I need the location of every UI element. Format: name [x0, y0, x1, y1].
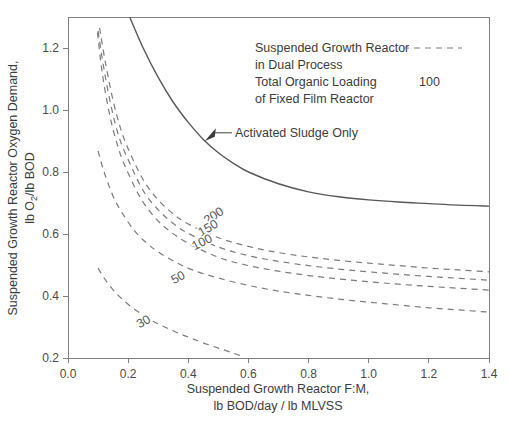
y-tick-label: 0.8 [42, 165, 59, 179]
x-tick-label: 1.4 [481, 367, 498, 381]
curve-50 [98, 151, 489, 312]
y-axis-title: Suspended Growth Reactor Oxygen Demand, … [6, 61, 39, 316]
curve-value-labels: 20020015015010010050503030 [134, 204, 226, 331]
chart-annotations: Activated Sludge Only [205, 126, 359, 141]
x-axis-title-line2: lb BOD/day / lb MLVSS [214, 399, 343, 413]
annotation-label: Activated Sludge Only [235, 126, 359, 140]
y-axis-title-line2-text: lb O [23, 201, 37, 224]
legend-line: Suspended Growth Reactor [255, 41, 409, 55]
y-axis-title-line2: lb O2/lb BOD [23, 152, 39, 224]
x-tick-label: 0.2 [120, 367, 137, 381]
x-tick-label: 0.0 [60, 367, 77, 381]
y-tick-label: 0.6 [42, 227, 59, 241]
x-tick-label: 0.4 [180, 367, 197, 381]
y-tick-label: 1.0 [42, 103, 59, 117]
y-axis-title-line1: Suspended Growth Reactor Oxygen Demand, [6, 61, 20, 316]
y-tick-label: 1.2 [42, 41, 59, 55]
legend-value-label: 100 [419, 75, 440, 89]
curve-label-group: 5050 [169, 268, 188, 287]
chart-canvas: 0.00.20.40.60.81.01.21.4 0.20.40.60.81.0… [0, 0, 510, 425]
y-tick-label: 0.2 [42, 351, 59, 365]
x-tick-label: 0.6 [240, 367, 257, 381]
chart-legend: Suspended Growth Reactorin Dual ProcessT… [255, 41, 462, 106]
legend-line: Total Organic Loading [255, 75, 377, 89]
curve-label-text: 50 [169, 268, 188, 287]
annotation-arrow-icon [205, 128, 216, 141]
x-axis-title-line1: Suspended Growth Reactor F:M, [187, 382, 370, 396]
y-axis-ticks: 0.20.40.60.81.01.2 [42, 41, 68, 365]
curve-30 [98, 268, 242, 356]
x-tick-label: 1.0 [360, 367, 377, 381]
x-axis-title: Suspended Growth Reactor F:M, lb BOD/day… [187, 382, 370, 413]
legend-line: in Dual Process [255, 58, 343, 72]
curve-label-text: 30 [134, 312, 153, 331]
x-tick-label: 1.2 [421, 367, 438, 381]
x-tick-label: 0.8 [300, 367, 317, 381]
x-axis-ticks: 0.00.20.40.60.81.01.21.4 [60, 358, 498, 381]
legend-line: of Fixed Film Reactor [255, 92, 374, 106]
curve-label-group: 3030 [134, 312, 153, 331]
y-tick-label: 0.4 [42, 289, 59, 303]
figure-container: 0.00.20.40.60.81.01.21.4 0.20.40.60.81.0… [0, 0, 510, 425]
